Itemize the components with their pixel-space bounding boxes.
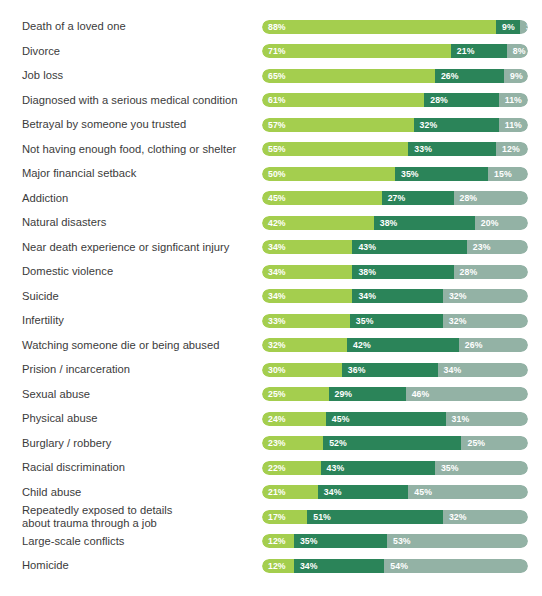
bar-segment-value: 32% bbox=[262, 338, 286, 352]
bar-segment-1: 88% bbox=[262, 20, 496, 34]
bar-segment-1: 30% bbox=[262, 363, 342, 377]
bar-segment-value: 45% bbox=[326, 412, 350, 426]
bar-segment-1: 57% bbox=[262, 118, 414, 132]
bar-segment-value: 21% bbox=[451, 44, 475, 58]
category-label-line1: Not having enough food, clothing or shel… bbox=[22, 143, 236, 155]
category-label: Major financial setback bbox=[0, 167, 262, 180]
category-label-line1: Infertility bbox=[22, 314, 64, 326]
bar-segment-3: 25% bbox=[461, 436, 528, 450]
bar-segment-2: 26% bbox=[435, 69, 504, 83]
bar-segment-value: 12% bbox=[262, 559, 286, 573]
bar-segment-value: 9% bbox=[496, 20, 515, 34]
category-label: Not having enough food, clothing or shel… bbox=[0, 143, 262, 156]
bar-segment-1: 45% bbox=[262, 191, 382, 205]
bar-segment-value: 24% bbox=[262, 412, 286, 426]
bar-segment-2: 35% bbox=[294, 534, 387, 548]
bar-segment-value: 23% bbox=[467, 240, 491, 254]
category-label: Domestic violence bbox=[0, 265, 262, 278]
bar-segment-1: 23% bbox=[262, 436, 323, 450]
bar-segment-3: 28% bbox=[454, 265, 528, 279]
category-label-line1: Repeatedly exposed to details bbox=[22, 504, 172, 516]
bar-segment-value: 17% bbox=[262, 510, 286, 524]
category-label: Racial discrimination bbox=[0, 461, 262, 474]
bar-segment-value: 34% bbox=[294, 559, 318, 573]
bar-track: 45%27%28% bbox=[262, 191, 528, 205]
bar-segment-3: 32% bbox=[443, 510, 528, 524]
bar-track: 33%35%32% bbox=[262, 314, 528, 328]
bar-segment-value: 34% bbox=[438, 363, 462, 377]
bar-segment-1: 17% bbox=[262, 510, 307, 524]
bar-segment-value: 28% bbox=[454, 191, 478, 205]
bar-segment-value: 34% bbox=[262, 265, 286, 279]
bar-segment-value: 71% bbox=[262, 44, 286, 58]
chart-row: Death of a loved one88%9%3% bbox=[0, 15, 542, 40]
category-label: Job loss bbox=[0, 69, 262, 82]
bar-track: 23%52%25% bbox=[262, 436, 528, 450]
bar-segment-value: 21% bbox=[262, 485, 286, 499]
bar-segment-1: 34% bbox=[262, 265, 352, 279]
category-label-line1: Death of a loved one bbox=[22, 20, 126, 32]
bar-segment-3: 23% bbox=[467, 240, 528, 254]
category-label: Prision / incarceration bbox=[0, 363, 262, 376]
bar-segment-value: 29% bbox=[329, 387, 353, 401]
category-label: Homicide bbox=[0, 559, 262, 572]
bar-segment-value: 28% bbox=[454, 265, 478, 279]
category-label-line1: Child abuse bbox=[22, 486, 81, 498]
bar-segment-value: 26% bbox=[435, 69, 459, 83]
category-label-line1: Addiction bbox=[22, 192, 68, 204]
bar-segment-value: 28% bbox=[424, 93, 448, 107]
bar-track: 71%21%8% bbox=[262, 44, 528, 58]
category-label: Physical abuse bbox=[0, 412, 262, 425]
bar-segment-3: 9% bbox=[504, 69, 528, 83]
bar-segment-value: 42% bbox=[347, 338, 371, 352]
bar-track: 22%43%35% bbox=[262, 461, 528, 475]
bar-segment-1: 55% bbox=[262, 142, 408, 156]
chart-row: Watching someone die or being abused32%4… bbox=[0, 333, 542, 358]
bar-segment-value: 34% bbox=[352, 289, 376, 303]
bar-segment-2: 29% bbox=[329, 387, 406, 401]
bar-segment-value: 33% bbox=[262, 314, 286, 328]
bar-segment-value: 34% bbox=[318, 485, 342, 499]
category-label-line1: Domestic violence bbox=[22, 265, 113, 277]
bar-segment-1: 33% bbox=[262, 314, 350, 328]
bar-segment-value: 88% bbox=[262, 20, 286, 34]
bar-segment-1: 12% bbox=[262, 559, 294, 573]
category-label-line1: Major financial setback bbox=[22, 167, 136, 179]
bar-segment-3: 45% bbox=[408, 485, 528, 499]
bar-segment-value: 57% bbox=[262, 118, 286, 132]
bar-segment-value: 35% bbox=[395, 167, 419, 181]
bar-segment-3: 32% bbox=[443, 314, 528, 328]
category-label-line1: Diagnosed with a serious medical conditi… bbox=[22, 94, 237, 106]
bar-track: 50%35%15% bbox=[262, 167, 528, 181]
bar-track: 21%34%45% bbox=[262, 485, 528, 499]
bar-segment-3: 46% bbox=[406, 387, 528, 401]
stacked-bar-chart: Death of a loved one88%9%3%Divorce71%21%… bbox=[0, 0, 542, 596]
chart-row: Homicide12%34%54% bbox=[0, 554, 542, 579]
chart-row: Betrayal by someone you trusted57%32%11% bbox=[0, 113, 542, 138]
category-label-line1: Suicide bbox=[22, 290, 59, 302]
bar-track: 61%28%11% bbox=[262, 93, 528, 107]
bar-segment-1: 32% bbox=[262, 338, 347, 352]
bar-track: 34%38%28% bbox=[262, 265, 528, 279]
category-label: Death of a loved one bbox=[0, 20, 262, 33]
bar-segment-value: 27% bbox=[382, 191, 406, 205]
bar-segment-3: 35% bbox=[435, 461, 528, 475]
bar-segment-value: 38% bbox=[352, 265, 376, 279]
bar-segment-1: 65% bbox=[262, 69, 435, 83]
bar-segment-value: 9% bbox=[504, 69, 523, 83]
bar-segment-3: 28% bbox=[454, 191, 528, 205]
bar-segment-2: 35% bbox=[350, 314, 443, 328]
chart-row: Not having enough food, clothing or shel… bbox=[0, 137, 542, 162]
category-label: Near death experience or signficant inju… bbox=[0, 241, 262, 254]
chart-row: Job loss65%26%9% bbox=[0, 64, 542, 89]
bar-segment-value: 22% bbox=[262, 461, 286, 475]
bar-segment-3: 3% bbox=[520, 20, 528, 34]
chart-row: Suicide34%34%32% bbox=[0, 284, 542, 309]
bar-segment-value: 36% bbox=[342, 363, 366, 377]
bar-segment-2: 45% bbox=[326, 412, 446, 426]
bar-segment-2: 38% bbox=[374, 216, 475, 230]
chart-row: Sexual abuse25%29%46% bbox=[0, 382, 542, 407]
category-label-line1: Near death experience or signficant inju… bbox=[22, 241, 229, 253]
bar-segment-value: 53% bbox=[387, 534, 411, 548]
bar-segment-2: 9% bbox=[496, 20, 520, 34]
